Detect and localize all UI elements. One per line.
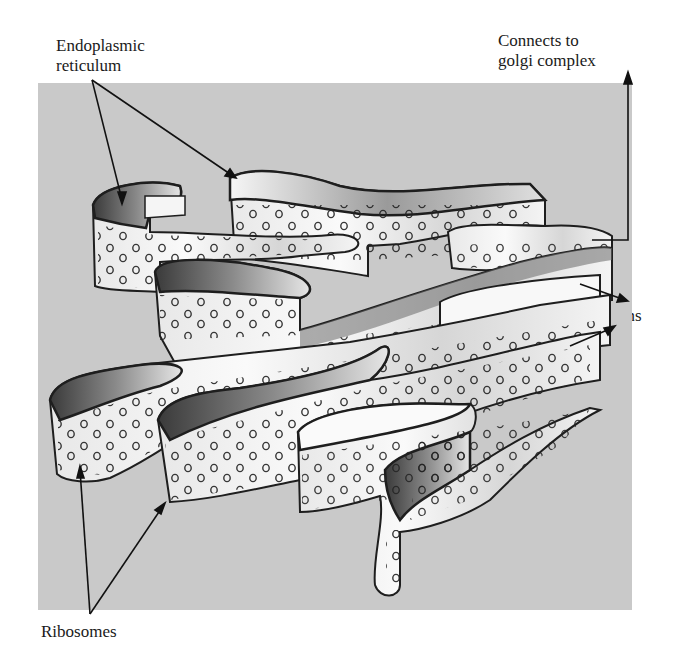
er-illustration bbox=[0, 0, 688, 646]
